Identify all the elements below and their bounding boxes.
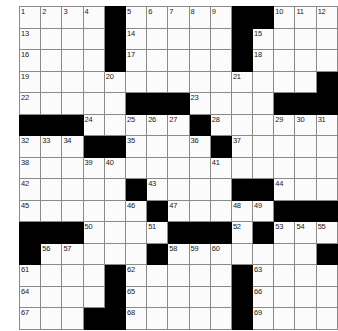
crossword-cell[interactable] (168, 71, 189, 93)
crossword-cell[interactable] (83, 243, 104, 265)
crossword-cell[interactable] (253, 136, 274, 158)
crossword-cell[interactable]: 12 (316, 7, 337, 29)
crossword-cell[interactable]: 46 (125, 200, 146, 222)
crossword-cell[interactable] (147, 308, 168, 330)
crossword-cell[interactable] (168, 50, 189, 72)
crossword-cell[interactable] (62, 157, 83, 179)
crossword-cell[interactable] (147, 157, 168, 179)
crossword-cell[interactable] (168, 286, 189, 308)
crossword-cell[interactable]: 35 (125, 136, 146, 158)
crossword-cell[interactable] (62, 50, 83, 72)
crossword-cell[interactable] (104, 243, 125, 265)
crossword-cell[interactable] (62, 286, 83, 308)
crossword-cell[interactable] (83, 71, 104, 93)
crossword-cell[interactable] (189, 286, 210, 308)
crossword-cell[interactable] (210, 28, 231, 50)
crossword-cell[interactable]: 36 (189, 136, 210, 158)
crossword-cell[interactable]: 52 (231, 222, 252, 244)
crossword-cell[interactable]: 11 (295, 7, 316, 29)
crossword-cell[interactable] (62, 265, 83, 287)
crossword-cell[interactable] (104, 179, 125, 201)
crossword-grid[interactable]: 1234567891011121314151617181920212223242… (19, 6, 338, 330)
crossword-cell[interactable]: 10 (274, 7, 295, 29)
crossword-cell[interactable] (295, 50, 316, 72)
crossword-cell[interactable] (189, 179, 210, 201)
crossword-cell[interactable]: 64 (20, 286, 41, 308)
crossword-cell[interactable]: 17 (125, 50, 146, 72)
crossword-cell[interactable]: 24 (83, 114, 104, 136)
crossword-cell[interactable] (295, 179, 316, 201)
crossword-cell[interactable] (41, 286, 62, 308)
crossword-cell[interactable] (83, 50, 104, 72)
crossword-cell[interactable] (316, 308, 337, 330)
crossword-cell[interactable] (274, 50, 295, 72)
crossword-cell[interactable]: 60 (210, 243, 231, 265)
crossword-cell[interactable] (316, 265, 337, 287)
crossword-cell[interactable]: 61 (20, 265, 41, 287)
crossword-cell[interactable] (168, 179, 189, 201)
crossword-cell[interactable]: 63 (253, 265, 274, 287)
crossword-cell[interactable]: 4 (83, 7, 104, 29)
crossword-cell[interactable] (274, 157, 295, 179)
crossword-cell[interactable] (295, 308, 316, 330)
crossword-cell[interactable]: 1 (20, 7, 41, 29)
crossword-cell[interactable] (147, 50, 168, 72)
crossword-cell[interactable]: 68 (125, 308, 146, 330)
crossword-cell[interactable]: 37 (231, 136, 252, 158)
crossword-cell[interactable]: 8 (189, 7, 210, 29)
crossword-cell[interactable] (274, 308, 295, 330)
crossword-cell[interactable]: 50 (83, 222, 104, 244)
crossword-cell[interactable] (295, 286, 316, 308)
crossword-cell[interactable] (147, 136, 168, 158)
crossword-cell[interactable]: 28 (210, 114, 231, 136)
crossword-cell[interactable]: 15 (253, 28, 274, 50)
crossword-cell[interactable]: 56 (41, 243, 62, 265)
crossword-cell[interactable] (83, 286, 104, 308)
crossword-cell[interactable]: 59 (189, 243, 210, 265)
crossword-cell[interactable] (274, 28, 295, 50)
crossword-cell[interactable] (253, 157, 274, 179)
crossword-cell[interactable] (125, 243, 146, 265)
crossword-cell[interactable] (189, 265, 210, 287)
crossword-cell[interactable] (41, 157, 62, 179)
crossword-cell[interactable] (295, 243, 316, 265)
crossword-cell[interactable] (210, 265, 231, 287)
crossword-cell[interactable] (210, 200, 231, 222)
crossword-cell[interactable]: 45 (20, 200, 41, 222)
crossword-cell[interactable] (210, 50, 231, 72)
crossword-cell[interactable] (62, 200, 83, 222)
crossword-cell[interactable]: 39 (83, 157, 104, 179)
crossword-cell[interactable]: 31 (316, 114, 337, 136)
crossword-cell[interactable] (147, 265, 168, 287)
crossword-cell[interactable] (147, 28, 168, 50)
crossword-cell[interactable] (231, 114, 252, 136)
crossword-cell[interactable]: 53 (274, 222, 295, 244)
crossword-cell[interactable] (41, 50, 62, 72)
crossword-cell[interactable]: 22 (20, 93, 41, 115)
crossword-cell[interactable] (253, 71, 274, 93)
crossword-cell[interactable] (189, 50, 210, 72)
crossword-cell[interactable] (295, 71, 316, 93)
crossword-cell[interactable]: 69 (253, 308, 274, 330)
crossword-cell[interactable] (295, 136, 316, 158)
crossword-cell[interactable] (104, 200, 125, 222)
crossword-cell[interactable]: 65 (125, 286, 146, 308)
crossword-cell[interactable]: 16 (20, 50, 41, 72)
crossword-cell[interactable] (189, 157, 210, 179)
crossword-cell[interactable]: 29 (274, 114, 295, 136)
crossword-cell[interactable] (253, 243, 274, 265)
crossword-cell[interactable] (62, 71, 83, 93)
crossword-cell[interactable]: 62 (125, 265, 146, 287)
crossword-cell[interactable] (316, 286, 337, 308)
crossword-cell[interactable] (147, 71, 168, 93)
crossword-cell[interactable]: 34 (62, 136, 83, 158)
crossword-cell[interactable] (41, 179, 62, 201)
crossword-cell[interactable] (83, 200, 104, 222)
crossword-cell[interactable] (62, 28, 83, 50)
crossword-cell[interactable] (104, 222, 125, 244)
crossword-cell[interactable]: 33 (41, 136, 62, 158)
crossword-cell[interactable] (83, 265, 104, 287)
crossword-cell[interactable]: 48 (231, 200, 252, 222)
crossword-cell[interactable] (274, 286, 295, 308)
crossword-cell[interactable] (104, 93, 125, 115)
